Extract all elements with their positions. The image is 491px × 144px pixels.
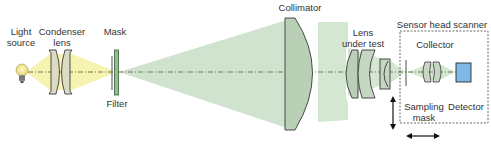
- filter-icon: [115, 50, 119, 95]
- detector-icon: [456, 63, 471, 82]
- lens-under-test-icon: [346, 50, 390, 98]
- horizontal-scan-arrow-icon: [406, 133, 440, 139]
- light-bulb-icon: [16, 64, 28, 83]
- condenser-label-line1: Condenser: [38, 26, 86, 37]
- lens-under-test-label-line1: Lens: [338, 27, 388, 38]
- condenser-lens-label: Condenser lens: [38, 26, 86, 48]
- sensor-head-scanner-label: Sensor head scanner: [394, 19, 490, 30]
- condenser-label-line2: lens: [38, 37, 86, 48]
- light-source-label: Light source: [4, 26, 38, 48]
- sampling-mask-label-line1: Sampling: [402, 101, 446, 112]
- vertical-scan-arrow-icon: [390, 96, 396, 130]
- filter-label: Filter: [100, 98, 134, 109]
- light-source-label-line1: Light: [4, 26, 38, 37]
- sampling-mask-label: Sampling mask: [402, 101, 446, 123]
- light-source-label-line2: source: [4, 37, 38, 48]
- collector-label: Collector: [410, 39, 460, 50]
- optical-setup-diagram: Light source Condenser lens Mask Filter …: [0, 0, 491, 144]
- lens-under-test-label-line2: under test: [338, 38, 388, 49]
- collimator-label: Collimator: [275, 2, 325, 13]
- sampling-mask-label-line2: mask: [402, 112, 446, 123]
- mask-label: Mask: [100, 26, 130, 37]
- detector-label: Detector: [444, 101, 488, 112]
- collimator-lens-icon: [285, 18, 313, 130]
- lens-under-test-label: Lens under test: [338, 27, 388, 49]
